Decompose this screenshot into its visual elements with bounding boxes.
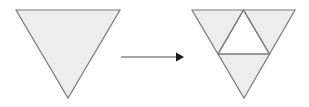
figure-container [0, 0, 309, 107]
triangle-subdivision-figure [0, 0, 309, 107]
